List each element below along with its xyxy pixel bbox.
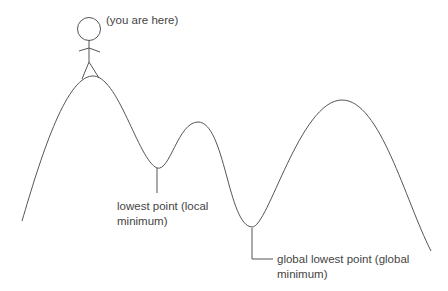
global-min-line-2: minimum) bbox=[277, 267, 409, 282]
local-minimum-label: lowest point (local minimum) bbox=[117, 199, 208, 229]
landscape-diagram bbox=[0, 0, 448, 291]
global-minimum-label: global lowest point (global minimum) bbox=[277, 252, 409, 282]
stick-figure-icon bbox=[78, 18, 101, 80]
global-min-pointer bbox=[252, 228, 273, 259]
local-min-line-1: lowest point (local bbox=[117, 199, 208, 214]
global-min-line-1: global lowest point (global bbox=[277, 252, 409, 267]
you-are-here-label: (you are here) bbox=[106, 13, 178, 28]
terrain-curve bbox=[22, 76, 431, 251]
local-min-line-2: minimum) bbox=[117, 214, 208, 229]
